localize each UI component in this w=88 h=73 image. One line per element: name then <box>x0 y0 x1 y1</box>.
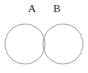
set-a-label: A <box>25 3 39 14</box>
venn-diagram-figure: A B <box>0 0 88 73</box>
set-b-circle <box>43 24 83 64</box>
set-b-label: B <box>50 3 64 14</box>
set-a-circle <box>5 24 45 64</box>
venn-diagram-canvas <box>0 0 88 73</box>
